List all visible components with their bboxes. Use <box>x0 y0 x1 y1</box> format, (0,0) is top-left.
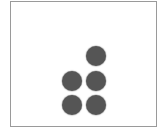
dot-icon <box>86 71 106 91</box>
dot-card-frame <box>10 1 157 127</box>
dot-icon <box>62 95 82 115</box>
dot-icon <box>86 95 106 115</box>
dot-icon <box>62 71 82 91</box>
dot-icon <box>86 46 106 66</box>
